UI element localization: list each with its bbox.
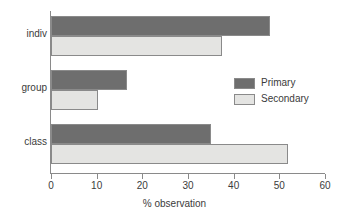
bar-group-secondary bbox=[51, 90, 98, 110]
category-label-indiv: indiv bbox=[0, 28, 47, 40]
x-tick-30 bbox=[188, 174, 189, 179]
x-tick-10 bbox=[97, 174, 98, 179]
legend-item-secondary: Secondary bbox=[234, 91, 309, 107]
x-tick-label-60: 60 bbox=[310, 180, 340, 192]
legend: Primary Secondary bbox=[234, 75, 309, 107]
legend-item-primary: Primary bbox=[234, 75, 309, 91]
x-tick-60 bbox=[325, 174, 326, 179]
legend-swatch-secondary bbox=[234, 94, 255, 105]
x-tick-40 bbox=[234, 174, 235, 179]
bar-class-primary bbox=[51, 124, 211, 144]
x-tick-20 bbox=[142, 174, 143, 179]
bar-chart: 0102030405060 % observation indiv group … bbox=[0, 0, 349, 220]
bar-class-secondary bbox=[51, 144, 288, 164]
legend-label-secondary: Secondary bbox=[261, 93, 309, 105]
x-axis-title: % observation bbox=[0, 198, 349, 210]
bar-group-primary bbox=[51, 70, 127, 90]
x-tick-label-30: 30 bbox=[173, 180, 203, 192]
x-tick-50 bbox=[279, 174, 280, 179]
x-tick-label-10: 10 bbox=[82, 180, 112, 192]
x-tick-label-40: 40 bbox=[219, 180, 249, 192]
legend-swatch-primary bbox=[234, 78, 255, 89]
category-label-group: group bbox=[0, 82, 47, 94]
bar-indiv-primary bbox=[51, 16, 270, 36]
category-label-class: class bbox=[0, 136, 47, 148]
x-tick-label-20: 20 bbox=[127, 180, 157, 192]
x-tick-label-50: 50 bbox=[264, 180, 294, 192]
legend-label-primary: Primary bbox=[261, 77, 295, 89]
bar-indiv-secondary bbox=[51, 36, 222, 56]
x-tick-label-0: 0 bbox=[36, 180, 66, 192]
x-tick-0 bbox=[51, 174, 52, 179]
